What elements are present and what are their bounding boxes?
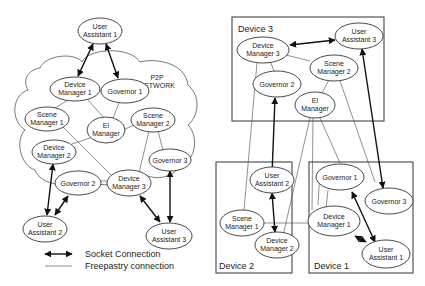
svg-text:User: User xyxy=(38,221,53,228)
svg-text:Manager 1: Manager 1 xyxy=(225,223,259,231)
p2p-label-line1: P2P xyxy=(150,74,164,81)
svg-text:Assistant 3: Assistant 3 xyxy=(152,236,186,243)
node-governor-1: Governor 1 xyxy=(101,79,149,103)
node-user-assistant-2-r: User Assistant 2 xyxy=(250,167,294,193)
node-governor-2: Governor 2 xyxy=(55,171,101,195)
node-scene-manager-2: Scene Manager 2 xyxy=(131,108,175,132)
node-user-assistant-2: User Assistant 2 xyxy=(23,216,67,242)
svg-text:Assistant 1: Assistant 1 xyxy=(369,254,403,261)
svg-text:Scene: Scene xyxy=(324,60,344,67)
node-device-manager-1: Device Manager 1 xyxy=(50,77,100,101)
svg-text:Governor 1: Governor 1 xyxy=(107,88,142,95)
node-scene-manager-1: Scene Manager 1 xyxy=(25,107,69,131)
svg-text:EI: EI xyxy=(312,97,319,104)
device-2-label: Device 2 xyxy=(219,261,254,271)
node-user-assistant-1: User Assistant 1 xyxy=(78,18,122,44)
svg-text:Assistant 2: Assistant 2 xyxy=(255,180,289,187)
svg-text:User: User xyxy=(352,28,367,35)
svg-text:Device: Device xyxy=(118,175,140,182)
legend: Socket Connection Freepastry connection xyxy=(45,249,174,271)
svg-text:Manager 3: Manager 3 xyxy=(246,50,280,58)
node-device-manager-2-r: Device Manager 2 xyxy=(255,232,299,258)
svg-text:Device: Device xyxy=(266,237,288,244)
node-ei-manager: EI Manager xyxy=(87,117,125,143)
svg-text:Governor 1: Governor 1 xyxy=(322,174,357,181)
svg-text:Governor 2: Governor 2 xyxy=(60,180,95,187)
svg-text:Scene: Scene xyxy=(232,215,252,222)
svg-text:Manager 2: Manager 2 xyxy=(317,68,351,76)
svg-text:User: User xyxy=(162,228,177,235)
svg-text:Governor 3: Governor 3 xyxy=(152,157,187,164)
svg-text:EI: EI xyxy=(103,122,110,129)
svg-text:Manager: Manager xyxy=(301,105,329,113)
svg-text:Manager 2: Manager 2 xyxy=(37,152,71,160)
node-user-assistant-3-r: User Assistant 3 xyxy=(335,23,383,49)
device-3-label: Device 3 xyxy=(238,24,273,34)
svg-text:User: User xyxy=(93,23,108,30)
svg-text:Scene: Scene xyxy=(143,112,163,119)
node-governor-2-r: Governor 2 xyxy=(253,71,301,97)
node-device-manager-3: Device Manager 3 xyxy=(107,170,151,196)
node-scene-manager-2-r: Scene Manager 2 xyxy=(310,55,358,81)
legend-socket-label: Socket Connection xyxy=(85,249,161,259)
svg-text:Governor 2: Governor 2 xyxy=(259,81,294,88)
svg-text:Assistant 3: Assistant 3 xyxy=(342,36,376,43)
node-governor-3-r: Governor 3 xyxy=(365,188,413,214)
node-governor-1-r: Governor 1 xyxy=(316,164,364,190)
node-device-manager-3-r: Device Manager 3 xyxy=(237,37,289,63)
node-user-assistant-1-r: User Assistant 1 xyxy=(362,240,410,268)
p2p-network-diagram: P2P NETWORK User Assis xyxy=(15,18,197,249)
node-device-manager-2: Device Manager 2 xyxy=(32,140,76,164)
svg-text:Manager 2: Manager 2 xyxy=(136,120,170,128)
svg-text:Manager: Manager xyxy=(92,130,120,138)
device-deployment-diagram: Device 3 Device 2 Device 1 xyxy=(216,17,413,273)
node-governor-3: Governor 3 xyxy=(149,149,191,171)
node-ei-manager-r: EI Manager xyxy=(295,92,335,118)
node-user-assistant-3: User Assistant 3 xyxy=(146,223,192,249)
architecture-diagram: P2P NETWORK User Assis xyxy=(0,0,425,286)
svg-text:Device: Device xyxy=(43,144,65,151)
svg-text:Scene: Scene xyxy=(37,111,57,118)
node-scene-manager-1-r: Scene Manager 1 xyxy=(220,210,264,236)
svg-text:Assistant 1: Assistant 1 xyxy=(83,31,117,38)
svg-text:Manager 1: Manager 1 xyxy=(30,119,64,127)
node-device-manager-1-r: Device Manager 1 xyxy=(308,206,360,236)
legend-freepastry-label: Freepastry connection xyxy=(85,261,174,271)
svg-text:Manager 2: Manager 2 xyxy=(260,245,294,253)
svg-text:Manager 1: Manager 1 xyxy=(317,221,351,229)
svg-text:Manager 1: Manager 1 xyxy=(58,89,92,97)
svg-text:Assistant 2: Assistant 2 xyxy=(28,229,62,236)
svg-text:Device: Device xyxy=(252,42,274,49)
svg-text:Device: Device xyxy=(64,81,86,88)
device-1-label: Device 1 xyxy=(314,261,349,271)
svg-text:Governor 3: Governor 3 xyxy=(371,198,406,205)
svg-text:User: User xyxy=(265,172,280,179)
svg-text:Manager 3: Manager 3 xyxy=(112,183,146,191)
svg-text:Device: Device xyxy=(323,213,345,220)
svg-text:User: User xyxy=(379,246,394,253)
